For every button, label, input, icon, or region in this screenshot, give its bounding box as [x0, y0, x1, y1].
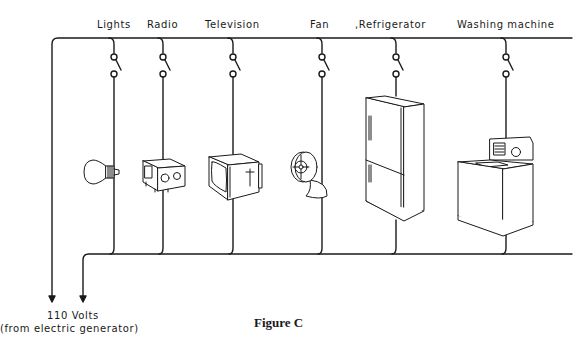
bottom-return-wire: [83, 254, 572, 300]
branch-fan: [317, 38, 329, 254]
label-fan: Fan: [310, 19, 329, 30]
parallel-circuit-diagram: Lights Radio Television Fan ,Refrigerato…: [0, 0, 579, 349]
radio-icon: [143, 159, 185, 192]
television-icon: [209, 154, 262, 200]
arrow-down-icon: [80, 296, 86, 302]
label-refrigerator: ,Refrigerator: [355, 19, 426, 30]
generator-label: (from electric generator): [0, 323, 139, 334]
figure-caption: Figure C: [254, 315, 303, 331]
circuit-wiring: [0, 0, 579, 349]
label-lights: Lights: [97, 19, 131, 30]
label-washing-machine: Washing machine: [457, 19, 555, 30]
washing-machine-icon: [458, 137, 533, 236]
label-radio: Radio: [147, 19, 178, 30]
label-television: Television: [205, 19, 260, 30]
branch-lights: [109, 38, 121, 254]
branch-radio: [158, 38, 170, 254]
branch-television: [228, 38, 240, 254]
arrow-down-icon: [49, 296, 55, 302]
refrigerator-icon: [366, 96, 424, 221]
voltage-label: 110 Volts: [47, 310, 99, 321]
